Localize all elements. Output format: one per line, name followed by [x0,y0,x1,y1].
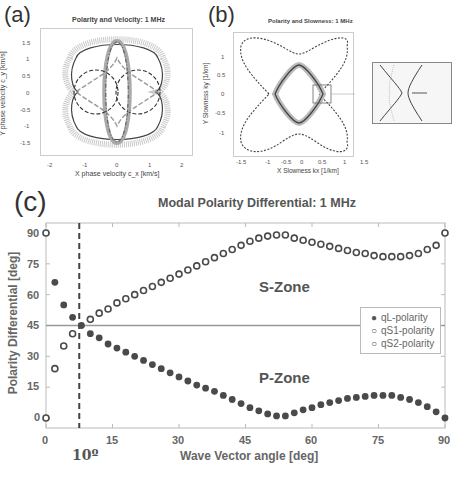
legend-label: qS1-polarity [381,325,434,336]
ten-degree-annotation: 10º [72,447,98,463]
c-xtick: 75 [372,434,384,446]
c-xtick: 45 [239,434,251,446]
legend-item-qs2: ○ qS2-polarity [367,337,434,350]
open-circle-icon: ○ [367,338,381,349]
c-xtick: 0 [42,434,48,446]
open-circle-icon: ○ [367,325,381,336]
c-ytick: 0 [34,411,40,423]
s-zone-label: S-Zone [259,278,310,295]
legend-item-ql: ● qL-polarity [367,311,434,324]
p-zone-label: P-Zone [259,369,310,386]
c-ytick: 45 [27,319,39,331]
c-xtick: 90 [438,434,450,446]
legend-label: qS2-polarity [381,338,434,349]
filled-circle-icon: ● [367,312,381,323]
panel-c-plot [0,0,465,478]
c-ytick: 60 [27,289,39,301]
c-xtick: 15 [106,434,118,446]
panel-c-xlabel: Wave Vector angle [deg] [180,449,318,463]
c-xtick: 30 [172,434,184,446]
c-ytick: 90 [27,227,39,239]
c-ytick: 30 [27,350,39,362]
panel-c-ylabel: Polarity Differential [deg] [6,252,20,395]
chart-legend: ● qL-polarity ○ qS1-polarity ○ qS2-polar… [360,307,441,354]
c-ytick: 75 [27,258,39,270]
c-ytick: 15 [27,380,39,392]
legend-label: qL-polarity [381,312,428,323]
legend-item-qs1: ○ qS1-polarity [367,324,434,337]
c-xtick: 60 [305,434,317,446]
